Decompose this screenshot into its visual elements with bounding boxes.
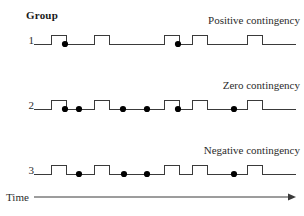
condition-label-zero: Zero contingency [223, 79, 300, 91]
outcome-dot [62, 41, 68, 47]
outcome-dot [231, 171, 237, 177]
outcome-dot [175, 41, 181, 47]
group-header-label: Group [26, 9, 58, 21]
trace-group-2 [0, 91, 304, 117]
outcome-dot [144, 106, 150, 112]
outcome-dot [120, 106, 126, 112]
arrowhead-icon [288, 194, 296, 201]
outcome-dot [76, 171, 82, 177]
contingency-figure: Group 1 2 3 Positive contingency Zero co… [0, 0, 304, 216]
condition-label-positive: Positive contingency [208, 14, 300, 26]
outcome-dot [121, 171, 127, 177]
outcome-dot [62, 106, 68, 112]
time-axis-arrow [0, 186, 304, 208]
trace-group-1 [0, 26, 304, 52]
outcome-dot [144, 171, 150, 177]
outcome-dot [175, 106, 181, 112]
condition-label-negative: Negative contingency [204, 144, 300, 156]
outcome-dot [76, 106, 82, 112]
waveform-path [34, 165, 296, 174]
waveform-path [34, 35, 296, 44]
waveform-path [34, 100, 296, 109]
outcome-dot [231, 106, 237, 112]
trace-group-3 [0, 156, 304, 182]
